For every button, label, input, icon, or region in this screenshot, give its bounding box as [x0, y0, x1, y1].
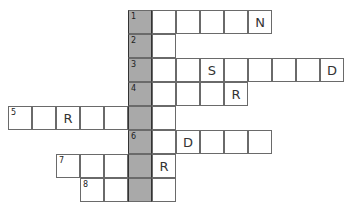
grid-cell[interactable]	[152, 34, 176, 58]
grid-cell[interactable]	[152, 58, 176, 82]
grid-cell[interactable]	[224, 10, 248, 34]
highlighted-cell[interactable]	[128, 106, 152, 130]
clue-number: 7	[59, 156, 64, 165]
highlighted-cell[interactable]: 1	[128, 10, 152, 34]
grid-cell[interactable]	[80, 154, 104, 178]
grid-cell[interactable]: R	[152, 154, 176, 178]
clue-number: 3	[131, 60, 136, 69]
grid-cell[interactable]	[176, 10, 200, 34]
grid-cell[interactable]: 5	[8, 106, 32, 130]
grid-cell[interactable]	[104, 106, 128, 130]
grid-cell[interactable]	[80, 106, 104, 130]
highlighted-cell[interactable]	[128, 178, 152, 202]
grid-cell[interactable]: 7	[56, 154, 80, 178]
grid-cell[interactable]	[176, 82, 200, 106]
highlighted-cell[interactable]: 3	[128, 58, 152, 82]
clue-number: 4	[131, 84, 136, 93]
grid-cell[interactable]	[224, 58, 248, 82]
clue-number: 2	[131, 36, 136, 45]
grid-cell[interactable]: R	[224, 82, 248, 106]
grid-cell[interactable]	[176, 58, 200, 82]
grid-cell[interactable]	[296, 58, 320, 82]
grid-cell[interactable]	[152, 82, 176, 106]
clue-number: 5	[11, 108, 16, 117]
cell-letter: R	[225, 87, 247, 103]
grid-cell[interactable]	[32, 106, 56, 130]
crossword-grid: 1N23SD4R5R6D7R8	[0, 0, 349, 211]
grid-cell[interactable]: S	[200, 58, 224, 82]
grid-cell[interactable]	[200, 130, 224, 154]
clue-number: 8	[83, 180, 88, 189]
grid-cell[interactable]	[248, 130, 272, 154]
grid-cell[interactable]	[272, 58, 296, 82]
grid-cell[interactable]	[200, 82, 224, 106]
grid-cell[interactable]: D	[320, 58, 344, 82]
grid-cell[interactable]	[152, 106, 176, 130]
clue-number: 6	[131, 132, 136, 141]
cell-letter: R	[57, 111, 79, 127]
grid-cell[interactable]	[248, 58, 272, 82]
grid-cell[interactable]: N	[248, 10, 272, 34]
grid-cell[interactable]	[200, 10, 224, 34]
grid-cell[interactable]	[104, 178, 128, 202]
highlighted-cell[interactable]: 6	[128, 130, 152, 154]
cell-letter: N	[249, 15, 271, 31]
grid-cell[interactable]	[224, 130, 248, 154]
grid-cell[interactable]	[104, 154, 128, 178]
cell-letter: R	[153, 159, 175, 175]
grid-cell[interactable]: 8	[80, 178, 104, 202]
grid-cell[interactable]	[152, 178, 176, 202]
grid-cell[interactable]	[152, 130, 176, 154]
highlighted-cell[interactable]: 2	[128, 34, 152, 58]
clue-number: 1	[131, 12, 136, 21]
grid-cell[interactable]	[152, 10, 176, 34]
grid-cell[interactable]: D	[176, 130, 200, 154]
cell-letter: D	[321, 63, 343, 79]
grid-cell[interactable]: R	[56, 106, 80, 130]
highlighted-cell[interactable]: 4	[128, 82, 152, 106]
cell-letter: S	[201, 63, 223, 79]
cell-letter: D	[177, 135, 199, 151]
highlighted-cell[interactable]	[128, 154, 152, 178]
